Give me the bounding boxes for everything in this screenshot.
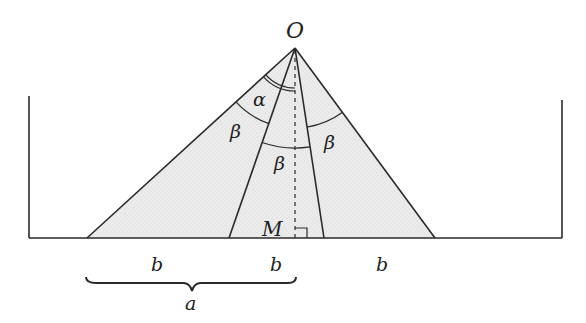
diagram-canvas: O M α β β β b b b a: [0, 0, 586, 323]
alpha-label: α: [253, 88, 266, 110]
segment-label-b1: b: [151, 253, 163, 275]
brace-a: [86, 277, 296, 291]
beta-label-middle: β: [273, 152, 285, 174]
brace-label-a: a: [185, 292, 196, 314]
shaded-triangle: [87, 48, 435, 238]
beta-label-left: β: [229, 120, 241, 142]
segment-label-b3: b: [376, 253, 388, 275]
foot-label-M: M: [261, 217, 283, 241]
apex-label-O: O: [286, 18, 304, 43]
segment-label-b2: b: [270, 253, 282, 275]
beta-label-right: β: [323, 131, 335, 153]
